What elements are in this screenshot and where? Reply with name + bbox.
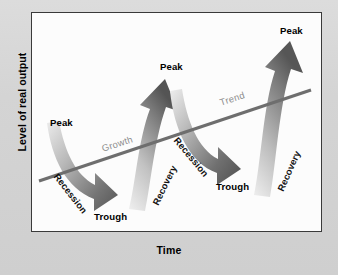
label-peak-1: Peak bbox=[50, 117, 73, 128]
plot-area: Peak Recession Trough Recovery Peak Rece… bbox=[31, 12, 322, 232]
recovery-arrow-2 bbox=[254, 41, 303, 197]
label-trough-2: Trough bbox=[216, 181, 249, 192]
y-axis-title: Level of real output bbox=[16, 42, 28, 162]
label-peak-3: Peak bbox=[280, 25, 303, 36]
x-axis-title: Time bbox=[0, 244, 338, 256]
recovery-arrow-1 bbox=[129, 79, 178, 211]
business-cycle-figure: the Keuls made a new ( unless ) when, su… bbox=[0, 0, 338, 275]
label-peak-2: Peak bbox=[160, 61, 183, 72]
label-trough-1: Trough bbox=[94, 211, 127, 222]
